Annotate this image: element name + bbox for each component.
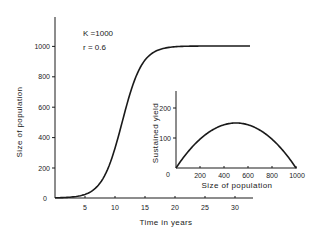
inset-y-tick-label: 200: [159, 105, 171, 112]
main-x-tick-label: 5: [83, 204, 87, 211]
main-y-tick-label: 800: [38, 73, 50, 80]
inset-x-tick-label: 600: [242, 172, 254, 179]
main-y-tick-label: 0: [43, 195, 47, 202]
inset-y-tick-label: 100: [159, 135, 171, 142]
main-y-tick-label: 400: [38, 134, 50, 141]
inset-x-tick-label: 1000: [289, 172, 305, 179]
inset-y-tick-label: 0: [166, 171, 170, 178]
main-x-tick-label: 20: [171, 204, 179, 211]
main-y-axis-label: Size of population: [15, 87, 24, 158]
main-y-tick-label: 1000: [34, 43, 50, 50]
inset-x-tick-label: 800: [266, 172, 278, 179]
inset-y-axis-label: Sustained yield: [151, 103, 160, 163]
inset-x-tick-label: 200: [194, 172, 206, 179]
main-y-ticks: 0 200 400 600 800 1000: [34, 43, 55, 202]
k-annotation: K =1000: [83, 29, 114, 38]
inset-plot: 0 100 200 200 400 600 800 1000 Size of p…: [150, 88, 310, 193]
main-y-tick-label: 600: [38, 104, 50, 111]
main-y-tick-label: 200: [38, 165, 50, 172]
r-annotation: r = 0.6: [83, 43, 106, 52]
main-x-axis-label: Time in years: [140, 218, 193, 227]
inset-background: [150, 88, 310, 193]
main-x-tick-label: 30: [231, 204, 239, 211]
inset-x-axis-label: Size of population: [202, 181, 273, 190]
main-x-tick-label: 15: [141, 204, 149, 211]
logistic-growth-chart: 0 200 400 600 800 1000 5 10 15 20 25 30 …: [0, 0, 319, 237]
main-x-tick-label: 10: [111, 204, 119, 211]
main-x-tick-label: 25: [201, 204, 209, 211]
inset-x-tick-label: 400: [218, 172, 230, 179]
